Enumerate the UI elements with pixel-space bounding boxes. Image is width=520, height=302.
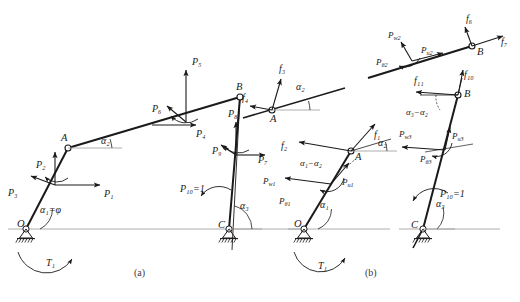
- force-label-Ptheta1: Pθ1: [279, 197, 291, 207]
- force-label-f1: f₁: [374, 130, 380, 140]
- angle-label-alpha1-a: α₁=φ: [40, 205, 61, 215]
- force-label-Pu3: Pu3: [452, 132, 464, 142]
- force-label-Pw3: Pw3: [399, 130, 412, 140]
- caption-b: (b): [365, 268, 377, 278]
- torque-label-T1-b: T₁: [318, 261, 327, 271]
- force-label-P10-a: P₁₀=1: [180, 184, 205, 194]
- node-label-A-b2: A: [270, 114, 276, 125]
- force-label-f11: f₁₁: [414, 76, 424, 86]
- caption-a: (a): [134, 268, 145, 278]
- node-label-C-a: C: [218, 220, 225, 231]
- angle-label-alpha2-a: α₂: [101, 136, 110, 146]
- node-label-B-b2: B: [477, 47, 483, 58]
- angle-label-alpha1-b: α₁: [320, 200, 329, 210]
- angle-label-alpha3-a: α₃: [240, 201, 249, 211]
- force-label-P2: P₂: [36, 160, 46, 170]
- force-label-f10: f₁₀: [464, 70, 474, 80]
- node-label-B-b3: B: [464, 89, 470, 100]
- angle-label-alpha3-minus-alpha2: α₃−α₂: [406, 108, 428, 117]
- node-label-B-a: B: [236, 82, 242, 93]
- figure-canvas: [0, 0, 520, 302]
- force-label-P9: P₉: [212, 146, 222, 156]
- node-label-O-a: O: [17, 219, 25, 230]
- force-label-f3: f₃: [279, 64, 285, 74]
- node-label-A-a: A: [61, 133, 67, 144]
- torque-label-T1-a: T₁: [46, 258, 55, 268]
- force-label-P7: P₇: [258, 155, 268, 165]
- mechanics-figure: O A B C α₁=φ α₂ α₃ P₁ P₂ P₃ P₄ P₅ P₆ P₇ …: [0, 0, 520, 302]
- angle-label-alpha1-minus-alpha2: α₁−α₂: [300, 159, 322, 168]
- force-label-P1: P₁: [104, 189, 114, 199]
- force-label-P4: P₄: [196, 129, 206, 139]
- panel-a-geometry: [8, 94, 300, 250]
- force-label-f7: f₇: [501, 37, 507, 47]
- angle-label-alpha3-b: α₃: [436, 199, 445, 209]
- force-label-f2: f₂: [281, 141, 287, 151]
- angle-label-alpha2-b2: α₂: [296, 82, 305, 92]
- force-label-Pu2: Pu2: [421, 46, 433, 56]
- force-label-f6: f₆: [466, 14, 472, 24]
- node-label-A-b1: A: [355, 152, 361, 163]
- panel-b-bar2-lower-node: [243, 79, 345, 118]
- force-label-Pw2: Pw2: [388, 31, 401, 41]
- force-label-P5: P₅: [192, 57, 202, 67]
- force-label-P8: P₈: [228, 109, 238, 119]
- force-label-Ptheta3: Pθ3: [420, 155, 432, 165]
- force-label-Pu1: Pu1: [342, 178, 354, 188]
- force-label-P3: P₃: [8, 188, 18, 198]
- force-label-Pw1: Pw1: [263, 177, 276, 187]
- force-label-f4: f₄: [242, 93, 248, 103]
- node-label-O-b: O: [294, 219, 302, 230]
- force-label-P6: P₆: [152, 104, 162, 114]
- force-label-P10-b: P₁₀=1: [440, 189, 465, 199]
- force-label-Ptheta2: Pθ2: [376, 58, 388, 68]
- node-label-C-b: C: [411, 220, 418, 231]
